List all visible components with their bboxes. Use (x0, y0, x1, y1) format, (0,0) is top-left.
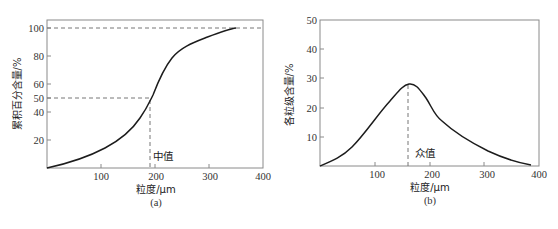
chart-b-xtick-100: 100 (369, 169, 385, 180)
chart-b-sub-label: (b) (424, 195, 437, 207)
chart-a-median-guide (47, 98, 150, 168)
chart-b-ytick-30: 30 (307, 73, 318, 84)
chart-a-ytick-40: 40 (34, 107, 45, 118)
chart-b-xtick-200: 200 (424, 169, 440, 180)
chart-a-ytick-100: 100 (28, 23, 44, 34)
chart-a-ytick-20: 20 (34, 135, 45, 146)
chart-a-x-axis-title: 粒度/μm (136, 183, 175, 195)
chart-b-x-ticks: 100 200 300 400 (369, 162, 547, 180)
chart-a-ytick-80: 80 (34, 51, 45, 62)
chart-a-xtick-200: 200 (148, 171, 164, 182)
chart-b-y-ticks: 10 20 30 40 50 (307, 15, 325, 143)
chart-b-ytick-40: 40 (307, 44, 318, 55)
chart-a-y-axis-title: 累积百分含量/% (11, 58, 23, 131)
figure: 20 40 50 60 80 100 100 200 300 400 中值 累积… (0, 0, 558, 229)
chart-b: 10 20 30 40 50 100 200 300 400 众值 各粒级含量/… (283, 15, 547, 207)
chart-b-ytick-50: 50 (307, 15, 318, 26)
chart-b-xtick-400: 400 (531, 169, 547, 180)
chart-b-x-axis-title: 粒度/μm (410, 181, 449, 193)
chart-b-plot-frame (320, 20, 539, 166)
chart-b-y-axis-title: 各粒级含量/% (283, 64, 295, 127)
chart-a-xtick-300: 300 (202, 171, 218, 182)
chart-a-xtick-100: 100 (93, 171, 109, 182)
chart-b-xtick-300: 300 (479, 169, 495, 180)
chart-a-x-ticks: 100 200 300 400 (93, 164, 271, 182)
chart-a-median-label: 中值 (153, 150, 174, 162)
chart-a-sub-label: (a) (150, 197, 162, 209)
chart-a-y-ticks: 20 40 50 60 80 100 (28, 23, 51, 146)
chart-a-xtick-400: 400 (255, 171, 271, 182)
chart-b-mode-label: 众值 (415, 147, 436, 159)
chart-b-ytick-20: 20 (307, 103, 318, 114)
chart-a-ytick-50: 50 (34, 93, 45, 104)
chart-a-plot-frame (47, 20, 263, 168)
chart-a: 20 40 50 60 80 100 100 200 300 400 中值 累积… (11, 20, 271, 209)
chart-a-ytick-60: 60 (34, 79, 45, 90)
chart-b-ytick-10: 10 (307, 132, 318, 143)
